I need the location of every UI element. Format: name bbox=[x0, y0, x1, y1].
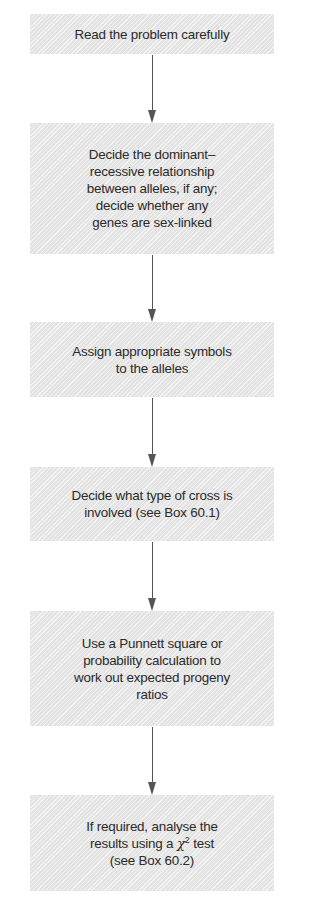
step-text-line: probability calculation to bbox=[74, 652, 230, 669]
flow-step-cross-type: Decide what type of cross is involved (s… bbox=[30, 467, 274, 541]
step-text-line: recessive relationship bbox=[87, 163, 218, 180]
step-text-fragment: test bbox=[190, 836, 214, 851]
step-text-line: Assign appropriate symbols bbox=[72, 343, 231, 360]
chi-symbol: χ bbox=[177, 836, 185, 851]
step-text-fragment: results using a bbox=[90, 836, 177, 851]
down-arrow-icon bbox=[150, 55, 155, 123]
down-arrow-icon bbox=[150, 542, 155, 611]
step-text-line: ratios bbox=[74, 686, 230, 703]
flow-step-read-problem: Read the problem carefully bbox=[30, 14, 274, 54]
step-text-line: decide whether any bbox=[87, 197, 218, 214]
down-arrow-icon bbox=[150, 255, 155, 322]
step-text-line: between alleles, if any; bbox=[87, 180, 218, 197]
step-text-line: genes are sex-linked bbox=[87, 214, 218, 231]
step-text-line: Decide what type of cross is bbox=[71, 487, 232, 504]
step-text-line: Use a Punnett square or bbox=[74, 635, 230, 652]
flow-step-chi-square-test: If required, analyse the results using a… bbox=[30, 795, 274, 891]
flow-step-dominance-relationship: Decide the dominant– recessive relations… bbox=[30, 123, 274, 254]
down-arrow-icon bbox=[150, 727, 155, 795]
step-text-line: (see Box 60.2) bbox=[86, 852, 217, 869]
step-text-line: to the alleles bbox=[72, 360, 231, 377]
flow-step-punnett-square: Use a Punnett square or probability calc… bbox=[30, 611, 274, 726]
step-text-line: Decide the dominant– bbox=[87, 146, 218, 163]
step-text-line: work out expected progeny bbox=[74, 669, 230, 686]
step-text-line: If required, analyse the bbox=[86, 818, 217, 835]
flow-step-assign-symbols: Assign appropriate symbols to the allele… bbox=[30, 322, 274, 397]
step-text-line: involved (see Box 60.1) bbox=[71, 504, 232, 521]
down-arrow-icon bbox=[150, 398, 155, 467]
step-text-line: results using a χ2 test bbox=[86, 835, 217, 852]
step-text-line: Read the problem carefully bbox=[75, 26, 230, 43]
